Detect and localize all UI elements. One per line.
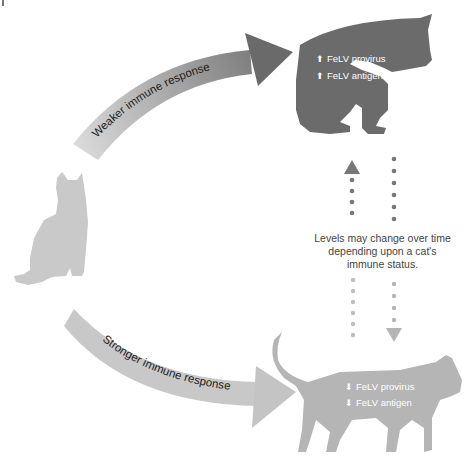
transition-caption: Levels may change over time depending up… bbox=[300, 232, 465, 271]
arrow-up-icon: ⬆ bbox=[316, 53, 325, 65]
regressive-label-antigen: ⬇FeLV antigen bbox=[345, 397, 412, 409]
up-dotted-arrow bbox=[344, 160, 360, 215]
arrow-down-icon: ⬇ bbox=[345, 381, 354, 393]
progressive-label-provirus: ⬆FeLV provirus bbox=[316, 53, 385, 65]
stronger-response-arrow bbox=[64, 309, 296, 428]
down-dotted-arrow bbox=[386, 282, 402, 342]
up-dotted-arrow-lower bbox=[351, 278, 355, 337]
source-cat-silhouette bbox=[14, 172, 88, 285]
progressive-label-antigen: ⬆FeLV antigen bbox=[316, 70, 383, 82]
down-dotted-arrow-upper bbox=[392, 157, 397, 222]
arrow-down-icon: ⬇ bbox=[345, 397, 354, 409]
weaker-response-arrow bbox=[73, 33, 293, 160]
arrow-up-icon: ⬆ bbox=[316, 70, 325, 82]
regressive-label-provirus: ⬇FeLV provirus bbox=[345, 381, 414, 393]
